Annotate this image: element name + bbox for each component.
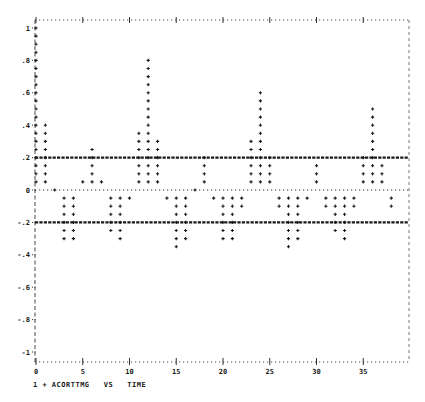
y-tick-label: .8 xyxy=(22,57,30,65)
plus-marker xyxy=(343,229,346,232)
plus-marker xyxy=(147,140,150,143)
plus-marker xyxy=(62,197,65,200)
plus-marker xyxy=(343,237,346,240)
plus-marker xyxy=(147,172,150,175)
plus-marker xyxy=(44,148,47,151)
plus-marker xyxy=(259,164,262,167)
plus-marker xyxy=(287,213,290,216)
plus-marker xyxy=(380,164,383,167)
plus-marker xyxy=(175,197,178,200)
plus-marker xyxy=(259,180,262,183)
x-tick-label: 0 xyxy=(34,368,38,376)
plus-marker xyxy=(268,164,271,167)
plus-marker xyxy=(72,229,75,232)
plus-marker xyxy=(259,124,262,127)
plus-marker xyxy=(296,205,299,208)
plus-marker xyxy=(137,140,140,143)
plus-marker xyxy=(119,229,122,232)
plus-marker xyxy=(72,197,75,200)
plus-marker xyxy=(62,213,65,216)
plus-marker xyxy=(259,132,262,135)
plus-marker xyxy=(62,237,65,240)
plus-marker xyxy=(231,197,234,200)
x-axis: 05101520253035 xyxy=(34,358,368,376)
plus-marker xyxy=(137,180,140,183)
y-tick-label: 0 xyxy=(26,187,30,195)
plus-marker xyxy=(315,180,318,183)
plus-marker xyxy=(137,164,140,167)
plus-marker xyxy=(296,229,299,232)
plus-marker xyxy=(380,180,383,183)
plus-marker xyxy=(44,132,47,135)
plus-marker xyxy=(249,180,252,183)
plus-marker xyxy=(371,164,374,167)
plus-marker xyxy=(343,197,346,200)
x-tick-label: 30 xyxy=(312,368,320,376)
plus-marker xyxy=(91,148,94,151)
plus-marker xyxy=(156,180,159,183)
plus-marker xyxy=(44,164,47,167)
plus-marker xyxy=(147,75,150,78)
plus-marker xyxy=(147,132,150,135)
y-tick-label: .6 xyxy=(22,89,30,97)
plus-marker xyxy=(156,140,159,143)
plus-marker xyxy=(278,197,281,200)
plus-marker xyxy=(371,148,374,151)
plus-marker xyxy=(119,205,122,208)
plus-marker xyxy=(287,229,290,232)
plus-marker xyxy=(147,124,150,127)
plus-marker xyxy=(53,188,56,191)
plus-marker xyxy=(371,124,374,127)
plus-marker xyxy=(165,197,168,200)
y-tick-label: -.2 xyxy=(17,219,30,227)
plus-marker xyxy=(278,205,281,208)
x-tick-label: 35 xyxy=(359,368,367,376)
plus-marker xyxy=(156,148,159,151)
plus-marker xyxy=(259,148,262,151)
x-tick-label: 5 xyxy=(81,368,85,376)
plus-marker xyxy=(175,229,178,232)
plus-marker xyxy=(137,172,140,175)
plus-marker xyxy=(259,140,262,143)
plus-marker xyxy=(390,197,393,200)
plus-marker xyxy=(334,205,337,208)
plus-marker xyxy=(315,172,318,175)
plus-marker xyxy=(296,197,299,200)
plus-marker xyxy=(352,197,355,200)
plus-marker xyxy=(296,237,299,240)
plus-marker xyxy=(259,172,262,175)
plus-marker xyxy=(44,180,47,183)
plus-marker xyxy=(221,205,224,208)
plus-marker xyxy=(306,197,309,200)
plus-marker xyxy=(390,205,393,208)
plus-marker xyxy=(128,197,131,200)
plot-frame xyxy=(35,17,409,362)
y-tick-label: -.8 xyxy=(17,316,30,324)
plus-marker xyxy=(259,107,262,110)
plus-marker xyxy=(109,205,112,208)
plus-marker xyxy=(334,213,337,216)
plus-marker xyxy=(259,116,262,119)
plus-marker xyxy=(109,197,112,200)
plus-marker xyxy=(371,107,374,110)
y-axis: 1.8.6.4.20-.2-.4-.6-.8-1 xyxy=(17,25,36,357)
plus-marker xyxy=(184,213,187,216)
reference-lines xyxy=(35,158,409,223)
plus-marker xyxy=(221,237,224,240)
plus-marker xyxy=(296,213,299,216)
plus-marker xyxy=(249,172,252,175)
plus-marker xyxy=(324,205,327,208)
plus-marker xyxy=(259,99,262,102)
plus-marker xyxy=(362,180,365,183)
plus-marker xyxy=(147,83,150,86)
plus-marker xyxy=(147,91,150,94)
y-tick-label: .2 xyxy=(22,154,30,162)
plus-marker xyxy=(371,140,374,143)
plus-marker xyxy=(147,59,150,62)
plus-marker xyxy=(287,245,290,248)
plus-marker xyxy=(91,164,94,167)
plus-marker xyxy=(371,132,374,135)
plus-marker xyxy=(72,213,75,216)
y-tick-label: 1 xyxy=(26,25,30,33)
plus-marker xyxy=(175,245,178,248)
